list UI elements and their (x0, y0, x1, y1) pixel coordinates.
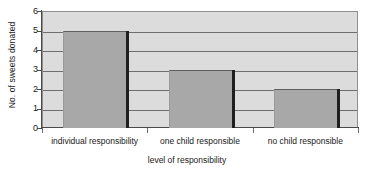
x-tick-label: no child responsible (245, 136, 365, 146)
y-axis-tick-labels: 0123456 (24, 10, 38, 128)
x-axis-title: level of responsibility (0, 155, 374, 165)
y-tick-label: 4 (24, 46, 38, 55)
y-tick-label: 2 (24, 85, 38, 94)
bar-shadow (126, 31, 129, 129)
bar (169, 70, 232, 129)
y-tick-mark (37, 70, 42, 71)
x-tick-label: one child responsible (140, 136, 260, 146)
x-tick-mark (42, 128, 43, 133)
bar-shadow (337, 89, 340, 128)
y-tick-label: 3 (24, 65, 38, 74)
bars (42, 11, 358, 128)
bar (274, 89, 337, 128)
y-tick-label: 6 (24, 7, 38, 16)
bar (63, 31, 126, 129)
bar-chart: No. of sweets donated 0123456 individual… (0, 0, 374, 181)
y-tick-mark (37, 109, 42, 110)
x-tick-mark (253, 128, 254, 133)
bar-shadow (232, 70, 235, 129)
x-tick-label: individual responsibility (35, 136, 155, 146)
y-tick-mark (37, 11, 42, 12)
x-tick-mark (147, 128, 148, 133)
x-tick-mark (358, 128, 359, 133)
y-tick-mark (37, 31, 42, 32)
y-tick-mark (37, 50, 42, 51)
y-axis-title: No. of sweets donated (7, 5, 17, 125)
y-tick-label: 1 (24, 104, 38, 113)
y-tick-label: 5 (24, 26, 38, 35)
y-tick-label: 0 (24, 124, 38, 133)
y-tick-mark (37, 89, 42, 90)
